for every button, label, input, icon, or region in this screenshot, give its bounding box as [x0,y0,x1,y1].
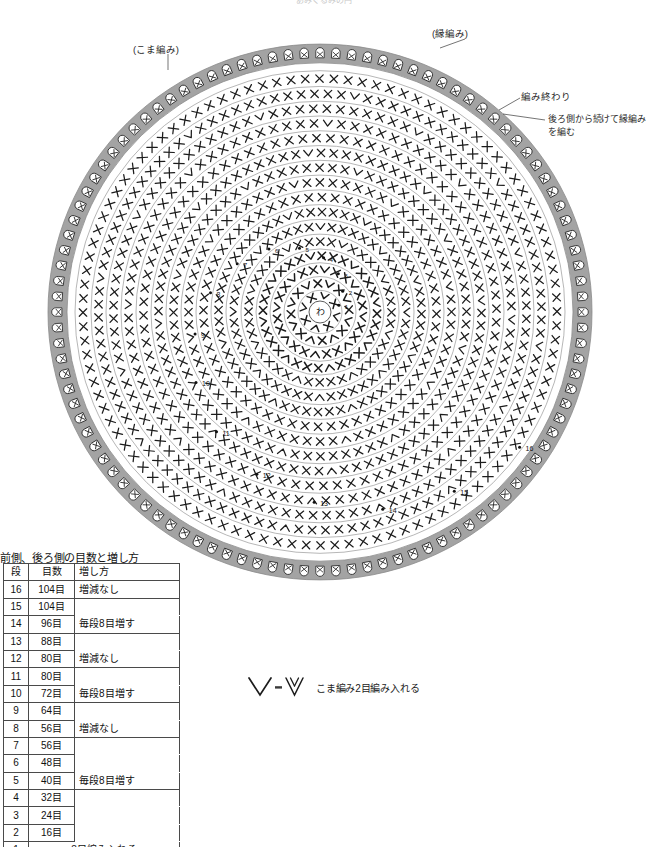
round-number-4: 4 [330,256,334,263]
round-number-10: 10 [202,380,210,387]
round-number-3: 3 [344,272,348,279]
table-row: 1388目 [4,633,180,650]
stitch-single-crochet [196,409,197,419]
stitch-single-crochet [145,171,155,172]
stitch-single-crochet [419,433,429,434]
round-start-dot [195,381,198,384]
cell-round: 4 [4,790,29,807]
stitch-crab [578,308,588,316]
cell-round: 1 [4,842,29,847]
cell-increase [75,737,180,754]
cell-round: 14 [4,616,29,633]
table-row: 324目 [4,807,180,824]
stitch-single-crochet [157,137,167,138]
round-number-9: 9 [201,332,205,339]
cell-round: 8 [4,720,29,737]
annotation-finish: 編み終わり [521,91,571,103]
cell-stitches: 72目 [29,685,75,702]
cell-increase [75,598,180,615]
round-start-dot [322,256,325,259]
round-number-14: 14 [389,507,397,514]
cell-increase [75,668,180,685]
table-row: 856目増減なし [4,720,180,737]
annotation-edging: (縁編み) [432,28,468,40]
cell-stitches: 16目 [29,824,75,841]
stitch-single-crochet [137,157,147,158]
crochet-circle-diagram: わ12345678910111213141516 [0,18,653,638]
magic-ring: わ [309,301,331,323]
round-number-5: 5 [305,246,309,253]
stitch-single-crochet [462,140,463,150]
cell-stitches: 56目 [29,737,75,754]
stitch-crab [576,276,587,286]
stitch-single-crochet [177,474,178,484]
round-number-16: 16 [526,445,534,452]
stitch-crab [52,323,63,332]
stitch-single-crochet [432,442,442,443]
cell-stitches: 40目 [29,772,75,789]
cell-stitches: 104目 [29,581,75,598]
cell-increase [75,807,180,824]
leader-line-1 [440,39,465,48]
round-start-dot [298,247,301,250]
stitch-single-crochet [409,422,419,423]
cell-increase: 増減なし [75,650,180,667]
cell-round: 10 [4,685,29,702]
stitch-crab [577,323,588,332]
stitch-crab [576,338,587,348]
cell-round: 6 [4,755,29,772]
cell-increase: 毎段8目増す [75,772,180,789]
cell-stitches: 56目 [29,720,75,737]
table-row: 756目 [4,737,180,754]
stitch-single-crochet [443,204,444,214]
stitch-single-crochet [188,422,189,432]
annotation-continue-edging: 後ろ側から続けて縁編みを編む [548,113,652,139]
cell-round: 11 [4,668,29,685]
round-start-dot [209,291,212,294]
stitch-single-crochet [143,462,144,472]
round-start-dot [267,248,270,251]
cell-increase: 増減なし [75,720,180,737]
stitch-crab [316,48,324,58]
header-increase: 増し方 [75,564,180,581]
magic-ring-label: わ [316,307,325,317]
stitch-single-crochet [452,191,453,201]
round-start-dot [518,446,521,449]
stitch-single-crochet [293,293,303,294]
round-start-dot [194,332,197,335]
table-header-row: 段 目数 増し方 [4,564,180,581]
cell-stitches: 24目 [29,807,75,824]
stitch-crab [53,276,64,286]
stitch-crab [347,564,357,575]
cell-stitches: 104目 [29,598,75,615]
legend-symbols [246,674,308,700]
cut-off-title: あみぐるみの円 [264,0,384,6]
round-number-1: 1 [345,303,349,310]
stitch-single-crochet [497,152,498,162]
stitch-single-crochet [476,132,477,142]
table-row: 432目 [4,790,180,807]
stitch-count-table: 段 目数 増し方 16104目増減なし15104目1496目毎段8目増す1388… [3,563,180,847]
stitch-crab [53,338,64,348]
cell-round: 5 [4,772,29,789]
cell-increase: 毎段8目増す [75,685,180,702]
header-stitches: 目数 [29,564,75,581]
leader-line-2 [499,98,520,110]
cell-increase: 増減なし [75,581,180,598]
table-row: 216目 [4,824,180,841]
stitch-single-crochet [472,486,482,487]
stitch-single-crochet [484,452,494,453]
cell-round: 9 [4,703,29,720]
cell-round: 7 [4,737,29,754]
round-number-2: 2 [349,289,353,296]
stitch-crab [316,566,324,576]
round-number-11: 11 [223,430,230,437]
cell-foundation: 8目編み入れる [29,842,180,847]
round-start-dot [337,272,340,275]
cell-stitches: 64目 [29,703,75,720]
stitch-single-crochet [208,400,209,410]
table-body: 16104目増減なし15104目1496目毎段8目増す1388目1280目増減な… [4,581,180,847]
cell-round: 13 [4,633,29,650]
table-row: 16104目増減なし [4,581,180,598]
round-start-dot [215,430,218,433]
